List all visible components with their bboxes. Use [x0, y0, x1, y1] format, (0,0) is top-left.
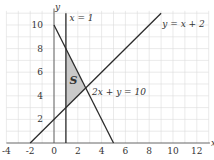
x-axis-label: x [211, 138, 214, 148]
svg-text:0: 0 [51, 146, 57, 156]
label-2x-plus-y-equals-10: 2x + y = 10 [91, 87, 146, 97]
svg-text:-2: -2 [26, 146, 35, 156]
svg-text:8: 8 [146, 146, 152, 156]
svg-text:6: 6 [37, 67, 43, 77]
svg-text:8: 8 [37, 44, 43, 54]
svg-text:10: 10 [32, 20, 44, 30]
svg-text:10: 10 [167, 146, 179, 156]
label-x-equals-1: x = 1 [69, 13, 93, 23]
x-tick-labels: -4-2024681012 [2, 146, 203, 156]
line-y-equals-x-plus-2 [30, 13, 161, 143]
region-label-s: S [69, 74, 77, 87]
svg-text:12: 12 [191, 146, 202, 156]
svg-text:4: 4 [37, 91, 43, 101]
y-axis-label: y [54, 2, 61, 12]
svg-text:-4: -4 [2, 146, 11, 156]
svg-text:4: 4 [99, 146, 105, 156]
graph-figure: -4-2024681012 246810 x y x = 1 y = x + 2… [0, 0, 214, 160]
svg-text:2: 2 [75, 146, 81, 156]
label-y-equals-x-plus-2: y = x + 2 [161, 19, 205, 29]
svg-text:6: 6 [123, 146, 129, 156]
svg-text:2: 2 [37, 114, 43, 124]
